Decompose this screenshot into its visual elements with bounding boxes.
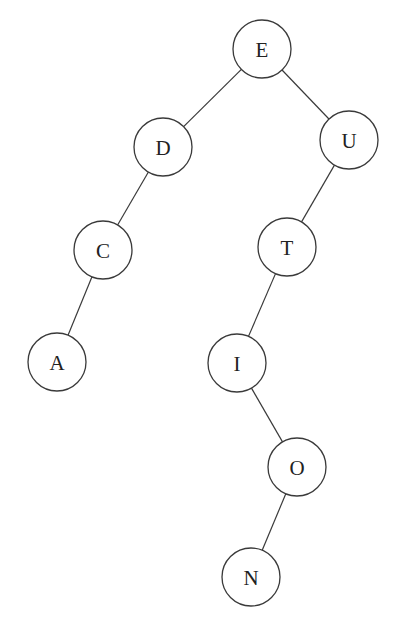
tree-node-i: I (208, 334, 266, 392)
edge-u-t (302, 165, 335, 222)
edge-e-u (282, 70, 329, 119)
node-label: D (155, 136, 170, 160)
node-label: A (49, 351, 65, 375)
node-label: C (96, 239, 110, 263)
tree-node-t: T (258, 218, 316, 276)
tree-node-d: D (134, 118, 192, 176)
edge-t-i (248, 274, 275, 337)
tree-svg: EDUCATION (0, 0, 401, 624)
edge-e-d (184, 69, 242, 126)
node-label: T (281, 236, 294, 260)
edge-i-o (251, 388, 282, 442)
edge-c-a (68, 277, 92, 335)
edge-d-c (118, 172, 149, 225)
node-label: E (256, 38, 269, 62)
node-label: U (341, 129, 356, 153)
node-label: O (289, 456, 304, 480)
node-label: I (234, 352, 241, 376)
tree-node-c: C (74, 221, 132, 279)
edge-o-n (262, 494, 286, 550)
tree-node-o: O (268, 438, 326, 496)
tree-node-n: N (222, 548, 280, 606)
tree-diagram: EDUCATION (0, 0, 401, 624)
tree-node-e: E (233, 20, 291, 78)
tree-node-a: A (28, 333, 86, 391)
node-label: N (243, 566, 258, 590)
tree-node-u: U (320, 111, 378, 169)
